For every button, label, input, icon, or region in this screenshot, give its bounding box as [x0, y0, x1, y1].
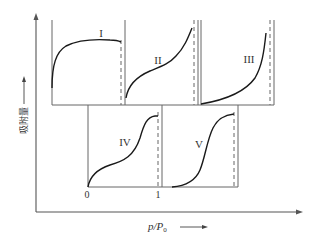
panel-type-IV: IV 0 1	[85, 105, 163, 200]
panel-V-label: V	[195, 138, 203, 150]
tick-one: 1	[156, 189, 161, 200]
panel-I-curve	[52, 40, 121, 88]
panel-type-V: V	[162, 105, 238, 187]
panel-type-III: III	[198, 20, 274, 105]
panel-I-frame	[52, 20, 125, 105]
panel-III-label: III	[244, 53, 255, 65]
y-axis-label-group: 吸附量	[18, 76, 29, 134]
panel-I-label: I	[99, 27, 103, 39]
x-label-arrow-icon	[202, 225, 208, 229]
panel-IV-label: IV	[119, 136, 131, 148]
y-axis-arrow-icon	[34, 13, 39, 20]
adsorption-isotherm-diagram: 吸附量 p/P0 I II	[0, 0, 312, 245]
x-axis-label: p/P0	[147, 220, 167, 234]
panel-type-II: II	[125, 20, 198, 105]
x-axis-arrow-icon	[296, 210, 303, 215]
y-axis-label: 吸附量	[18, 107, 29, 134]
tick-zero: 0	[85, 189, 90, 200]
panel-II-label: II	[154, 54, 162, 66]
panel-IV-curve	[88, 116, 158, 187]
panel-III-curve	[201, 33, 266, 104]
x-axis-label-group: p/P0	[147, 220, 208, 234]
panel-type-I: I	[52, 20, 125, 105]
panel-V-curve	[172, 114, 234, 187]
diagram-svg: 吸附量 p/P0 I II	[0, 0, 312, 245]
y-label-arrow-icon	[22, 76, 26, 82]
